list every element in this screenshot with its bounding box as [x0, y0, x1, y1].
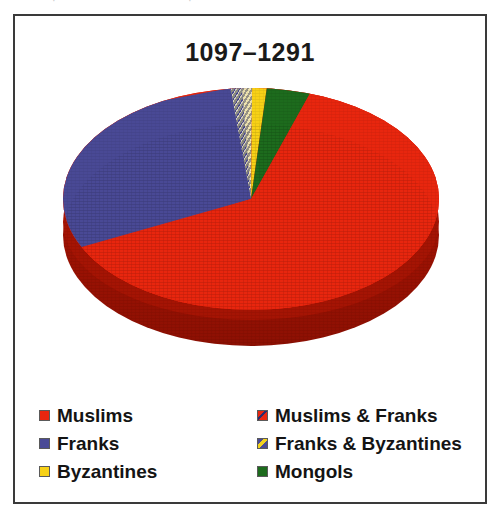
legend-item-muslims[interactable]: Muslims [39, 406, 239, 425]
legend-item-label: Franks & Byzantines [275, 434, 462, 453]
legend: Muslims Muslims & Franks Franks Franks &… [39, 401, 469, 485]
green-swatch [257, 466, 268, 477]
chart-frame: 1097–1291 [13, 14, 487, 504]
legend-item-label: Franks [57, 434, 119, 453]
pie-stage [63, 88, 439, 338]
pie-chart [51, 78, 451, 368]
legend-item-label: Muslims [57, 406, 133, 425]
pie-top-face [63, 88, 439, 310]
red-blue-swatch [257, 410, 268, 421]
red-swatch [39, 410, 50, 421]
legend-item-franks-byzantines[interactable]: Franks & Byzantines [257, 434, 467, 453]
legend-item-mongols[interactable]: Mongols [257, 462, 467, 481]
legend-item-byzantines[interactable]: Byzantines [39, 462, 239, 481]
clipped-text-artifact-2: · [188, 0, 192, 6]
blue-swatch [39, 438, 50, 449]
yellow-swatch [39, 466, 50, 477]
clipped-text-artifact: · [52, 0, 56, 6]
legend-item-muslims-franks[interactable]: Muslims & Franks [257, 406, 467, 425]
page-title: 1097–1291 [15, 38, 485, 67]
legend-item-label: Byzantines [57, 462, 157, 481]
blue-yellow-swatch [257, 438, 268, 449]
legend-item-franks[interactable]: Franks [39, 434, 239, 453]
legend-item-label: Muslims & Franks [275, 406, 438, 425]
legend-item-label: Mongols [275, 462, 353, 481]
